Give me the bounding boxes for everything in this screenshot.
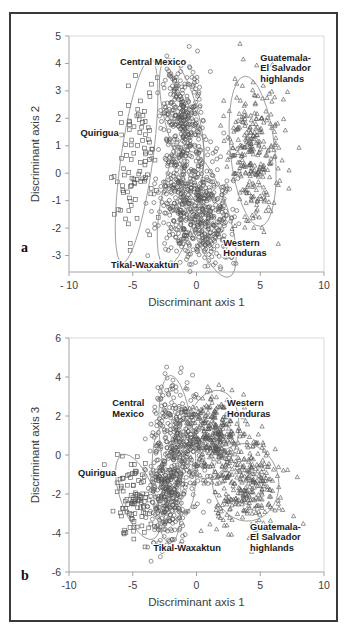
data-point bbox=[210, 160, 214, 164]
data-point bbox=[227, 494, 231, 498]
data-point bbox=[163, 241, 167, 245]
y-tick-label: -1 bbox=[52, 194, 61, 206]
data-point bbox=[178, 393, 182, 397]
x-tick-label: -5 bbox=[128, 579, 137, 591]
group-label-text: Western bbox=[223, 238, 260, 248]
data-point bbox=[236, 137, 240, 141]
data-point bbox=[225, 164, 229, 168]
data-point bbox=[153, 182, 157, 186]
data-point bbox=[136, 143, 140, 147]
data-point bbox=[139, 99, 143, 103]
data-point bbox=[129, 157, 133, 161]
data-point bbox=[243, 419, 247, 423]
data-point bbox=[260, 424, 264, 428]
data-point bbox=[149, 464, 153, 468]
data-point bbox=[257, 215, 261, 219]
data-point bbox=[149, 559, 153, 563]
group-label-text: Guatemala- bbox=[260, 53, 311, 63]
data-point bbox=[191, 373, 195, 377]
data-point bbox=[222, 98, 226, 102]
data-point bbox=[261, 458, 265, 462]
data-point bbox=[188, 481, 192, 485]
data-point bbox=[190, 487, 194, 491]
data-point bbox=[247, 435, 251, 439]
group-label-quirigua: QuiriguaQuirigua bbox=[80, 128, 119, 138]
x-axis-title: Discriminant axis 1 bbox=[148, 596, 245, 608]
data-point bbox=[135, 216, 139, 220]
scatter-plot-a: 543210-1-2-3- 10-50510Discriminant axis … bbox=[11, 14, 340, 320]
data-point bbox=[264, 453, 268, 457]
y-tick-label: -6 bbox=[52, 566, 61, 578]
x-tick-label: -5 bbox=[128, 279, 137, 291]
data-point bbox=[175, 138, 179, 142]
data-point bbox=[130, 138, 134, 142]
data-point bbox=[235, 475, 239, 479]
data-point bbox=[207, 499, 211, 503]
data-point bbox=[236, 151, 240, 155]
data-point bbox=[126, 222, 130, 226]
data-point bbox=[245, 130, 249, 134]
data-point bbox=[146, 545, 150, 549]
data-point bbox=[224, 184, 228, 188]
data-point bbox=[261, 83, 265, 87]
data-point bbox=[197, 253, 201, 257]
data-point bbox=[191, 70, 195, 74]
data-point bbox=[255, 63, 259, 67]
data-point bbox=[212, 247, 216, 251]
data-point bbox=[225, 157, 229, 161]
y-tick-label: 2 bbox=[55, 410, 61, 422]
data-point bbox=[204, 138, 208, 142]
group-label-tikal-waxaktun: Tikal-WaxaktunTikal-Waxaktun bbox=[111, 260, 179, 270]
group-label-text: Quirigua bbox=[78, 468, 117, 478]
data-point bbox=[125, 154, 129, 158]
data-point bbox=[187, 44, 191, 48]
data-point bbox=[148, 233, 152, 237]
data-point bbox=[157, 114, 161, 118]
data-point bbox=[256, 180, 260, 184]
data-point bbox=[215, 157, 219, 161]
data-point bbox=[274, 136, 278, 140]
data-point bbox=[146, 126, 150, 130]
y-tick-label: 0 bbox=[55, 449, 61, 461]
data-point bbox=[232, 261, 236, 265]
y-tick-label: -3 bbox=[52, 249, 61, 261]
data-point bbox=[148, 95, 152, 99]
group-label-central-mexico: CentralCentralMexicoMexico bbox=[112, 398, 144, 418]
data-point bbox=[197, 144, 201, 148]
data-point bbox=[215, 244, 219, 248]
data-point bbox=[215, 198, 219, 202]
data-point bbox=[172, 513, 176, 517]
data-point bbox=[280, 158, 284, 162]
y-tick-label: 0 bbox=[55, 167, 61, 179]
y-tick-label: -2 bbox=[52, 222, 61, 234]
data-point bbox=[181, 402, 185, 406]
data-point bbox=[172, 396, 176, 400]
x-axis-title: Discriminant axis 1 bbox=[148, 296, 245, 308]
data-point bbox=[220, 503, 224, 507]
y-tick-label: 4 bbox=[55, 57, 61, 69]
figure-border: 543210-1-2-3- 10-50510Discriminant axis … bbox=[9, 12, 338, 622]
data-point bbox=[115, 481, 119, 485]
data-point bbox=[166, 392, 170, 396]
data-point bbox=[132, 151, 136, 155]
data-point bbox=[141, 138, 145, 142]
data-point bbox=[231, 488, 235, 492]
data-point bbox=[281, 97, 285, 101]
data-point bbox=[146, 229, 150, 233]
data-point bbox=[142, 480, 146, 484]
data-point bbox=[237, 112, 241, 116]
data-point bbox=[124, 143, 128, 147]
data-point bbox=[268, 175, 272, 179]
data-point bbox=[206, 410, 210, 414]
data-point bbox=[134, 74, 138, 78]
data-point bbox=[122, 167, 126, 171]
data-point bbox=[142, 530, 146, 534]
data-point bbox=[242, 392, 246, 396]
data-point bbox=[301, 521, 305, 525]
data-point bbox=[168, 86, 172, 90]
x-tick-label: - 10 bbox=[60, 279, 78, 291]
data-point bbox=[174, 389, 178, 393]
y-tick-label: 4 bbox=[55, 371, 61, 383]
data-point bbox=[175, 249, 179, 253]
panel-a: 543210-1-2-3- 10-50510Discriminant axis … bbox=[11, 14, 340, 320]
